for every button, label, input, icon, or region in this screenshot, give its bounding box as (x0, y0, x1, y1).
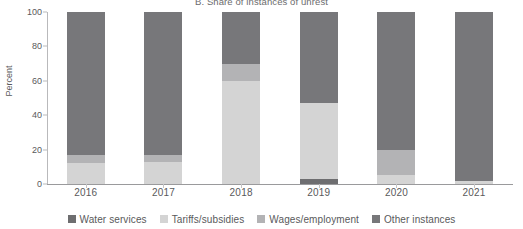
bar-segment[interactable] (144, 12, 182, 155)
legend-item[interactable]: Wages/employment (257, 214, 359, 225)
y-tick-label: 40 (12, 110, 42, 120)
chart-legend: Water servicesTariffs/subsidiesWages/emp… (0, 211, 523, 227)
bar-segment[interactable] (67, 155, 105, 164)
legend-label: Water services (80, 214, 147, 225)
legend-item[interactable]: Other instances (372, 214, 456, 225)
x-tick-label: 2018 (202, 187, 280, 203)
y-tick-label: 0 (12, 179, 42, 189)
bar-segment[interactable] (222, 12, 260, 64)
legend-swatch-icon (372, 215, 380, 223)
x-tick-label: 2020 (358, 187, 436, 203)
bar-segment[interactable] (377, 12, 415, 150)
x-tick-label: 2017 (125, 187, 203, 203)
plot-area: 020406080100 (47, 12, 513, 184)
bar-group[interactable] (202, 12, 280, 184)
legend-label: Tariffs/subsidies (172, 214, 245, 225)
bar-stack[interactable] (222, 12, 260, 184)
legend-item[interactable]: Tariffs/subsidies (160, 214, 245, 225)
bar-group[interactable] (280, 12, 358, 184)
chart-container: B. Share of instances of unrest Percent … (0, 0, 523, 229)
bar-segment[interactable] (222, 64, 260, 81)
legend-label: Other instances (384, 214, 456, 225)
bar-group[interactable] (47, 12, 125, 184)
legend-swatch-icon (68, 215, 76, 223)
bar-segment[interactable] (455, 12, 493, 181)
legend-swatch-icon (160, 215, 168, 223)
bar-segment[interactable] (377, 175, 415, 184)
bar-group[interactable] (358, 12, 436, 184)
x-axis-line (47, 184, 513, 185)
x-tick-label: 2021 (435, 187, 513, 203)
bar-segment[interactable] (67, 12, 105, 155)
y-tick-label: 100 (12, 7, 42, 17)
legend-label: Wages/employment (269, 214, 359, 225)
x-tick-label: 2016 (47, 187, 125, 203)
y-tick-label: 20 (12, 145, 42, 155)
bar-stack[interactable] (67, 12, 105, 184)
bar-segment[interactable] (300, 12, 338, 103)
bar-stack[interactable] (300, 12, 338, 184)
bar-segment[interactable] (144, 155, 182, 162)
bar-stack[interactable] (377, 12, 415, 184)
x-axis-labels: 201620172018201920202021 (47, 187, 513, 203)
bar-segment[interactable] (67, 163, 105, 184)
bar-stack[interactable] (455, 12, 493, 184)
bar-segment[interactable] (300, 103, 338, 179)
bar-stack[interactable] (144, 12, 182, 184)
bar-segment[interactable] (222, 81, 260, 184)
bar-group[interactable] (435, 12, 513, 184)
y-tick-label: 60 (12, 76, 42, 86)
chart-title: B. Share of instances of unrest (0, 0, 523, 6)
bar-group[interactable] (125, 12, 203, 184)
legend-item[interactable]: Water services (68, 214, 147, 225)
bar-series-group (47, 12, 513, 184)
bar-segment[interactable] (377, 150, 415, 176)
x-tick-label: 2019 (280, 187, 358, 203)
bar-segment[interactable] (144, 162, 182, 184)
y-tick-label: 80 (12, 41, 42, 51)
legend-swatch-icon (257, 215, 265, 223)
